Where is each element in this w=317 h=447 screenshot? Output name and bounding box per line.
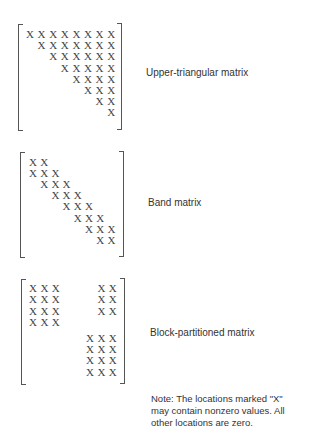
matrix-cell-x: X — [51, 283, 61, 294]
matrix-cell-x: X — [106, 63, 116, 74]
matrix-cell-x: X — [108, 367, 118, 378]
left-bracket — [20, 152, 25, 258]
matrix-cell-x: X — [84, 213, 94, 224]
matrix-cell-x: X — [95, 63, 105, 74]
matrix-cell-x: X — [84, 201, 94, 212]
matrix-cell-x: X — [39, 283, 49, 294]
matrix-cell-x: X — [108, 344, 118, 355]
matrix-cell-x: X — [96, 355, 106, 366]
note-line-3: other locations are zero. — [151, 417, 311, 429]
right-bracket — [120, 278, 125, 384]
left-bracket — [21, 279, 26, 385]
matrix-cell-x: X — [108, 333, 118, 344]
matrix-cell-x: X — [106, 107, 116, 118]
matrix-cell-x: X — [51, 294, 61, 305]
matrix-cell-x: X — [60, 63, 70, 74]
matrix-cell-x: X — [28, 294, 38, 305]
matrix-cell-x: X — [95, 224, 105, 235]
left-bracket — [18, 24, 23, 131]
matrix-cell-x: X — [84, 224, 94, 235]
right-bracket — [117, 23, 122, 130]
matrix-cell-x: X — [73, 213, 83, 224]
matrix-cell-x: X — [50, 190, 60, 201]
matrix-cell-x: X — [83, 63, 93, 74]
matrix-cell-x: X — [96, 333, 106, 344]
matrix-cell-x: X — [106, 235, 116, 246]
matrix-cell-x: X — [39, 294, 49, 305]
matrix-cell-x: X — [85, 333, 95, 344]
matrix-cell-x: X — [85, 367, 95, 378]
matrix-cell-x: X — [108, 355, 118, 366]
matrix-cell-x: X — [85, 355, 95, 366]
matrix-cell-x: X — [25, 29, 35, 40]
matrix-cell-x: X — [83, 85, 93, 96]
matrix-cell-x: X — [39, 179, 49, 190]
matrix-cell-x: X — [51, 317, 61, 328]
matrix-cell-x: X — [39, 317, 49, 328]
matrix-cell-x: X — [37, 40, 47, 51]
matrix-cell-x: X — [48, 51, 58, 62]
matrix-cell-x: X — [51, 306, 61, 317]
matrix-cell-x: X — [96, 294, 106, 305]
note-line-2: may contain nonzero values. All — [151, 405, 311, 417]
upper-triangular-label: Upper-triangular matrix — [146, 67, 248, 78]
matrix-cell-x: X — [60, 51, 70, 62]
matrix-cell-x: X — [28, 317, 38, 328]
matrix-cell-x: X — [85, 344, 95, 355]
matrix-cell-x: X — [108, 294, 118, 305]
matrix-cell-x: X — [95, 51, 105, 62]
matrix-cell-x: X — [106, 224, 116, 235]
right-bracket — [119, 151, 124, 257]
matrix-cell-x: X — [106, 51, 116, 62]
matrix-cell-x: X — [95, 213, 105, 224]
matrix-cell-x: X — [96, 283, 106, 294]
matrix-cell-x: X — [96, 306, 106, 317]
matrix-cell-x: X — [108, 283, 118, 294]
matrix-cell-x: X — [28, 306, 38, 317]
note-text: Note: The locations marked "X" may conta… — [151, 393, 311, 429]
matrix-cell-x: X — [95, 96, 105, 107]
matrix-cell-x: X — [62, 201, 72, 212]
matrix-cell-x: X — [95, 235, 105, 246]
matrix-cell-x: X — [96, 344, 106, 355]
matrix-cell-x: X — [71, 63, 81, 74]
matrix-cell-x: X — [28, 168, 38, 179]
block-partitioned-label: Block-partitioned matrix — [150, 327, 254, 338]
matrix-cell-x: X — [39, 306, 49, 317]
matrix-cell-x: X — [71, 51, 81, 62]
note-line-1: Note: The locations marked "X" — [151, 393, 311, 405]
band-matrix-label: Band matrix — [148, 197, 201, 208]
matrix-cell-x: X — [96, 367, 106, 378]
matrix-cell-x: X — [71, 74, 81, 85]
matrix-cell-x: X — [28, 283, 38, 294]
matrix-cell-x: X — [83, 51, 93, 62]
matrix-cell-x: X — [108, 306, 118, 317]
matrix-cell-x: X — [73, 201, 83, 212]
